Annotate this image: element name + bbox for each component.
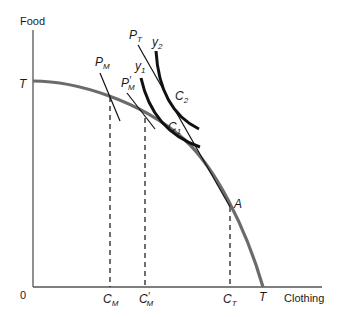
trade-diagram: Food Clothing 0 T T PM P′M PT y1 y2 C2 C… xyxy=(0,0,338,317)
price-line-pm-prime xyxy=(127,93,155,129)
indifference-curve-y1 xyxy=(141,78,200,147)
y1-label: y1 xyxy=(134,59,145,75)
price-line-pt xyxy=(138,45,230,207)
production-possibility-frontier xyxy=(33,81,263,287)
c1-label: C1 xyxy=(168,120,181,136)
y-axis-label: Food xyxy=(20,15,45,27)
c2-label: C2 xyxy=(175,89,189,105)
pm-label: PM xyxy=(95,55,110,71)
y2-label: y2 xyxy=(151,35,163,51)
ppf-y-intercept-label: T xyxy=(19,77,28,91)
cm-tick-label: CM xyxy=(103,292,119,308)
pt-label: PT xyxy=(129,28,143,44)
origin-label: 0 xyxy=(20,289,26,301)
point-a-label: A xyxy=(233,197,242,211)
pm-prime-label: P′M xyxy=(121,75,135,92)
cm-prime-tick-label: C′M xyxy=(139,291,154,308)
price-line-pm xyxy=(100,73,120,121)
x-axis-label: Clothing xyxy=(284,292,324,304)
ct-tick-label: CT xyxy=(223,292,238,308)
ppf-x-intercept-label: T xyxy=(259,290,268,304)
